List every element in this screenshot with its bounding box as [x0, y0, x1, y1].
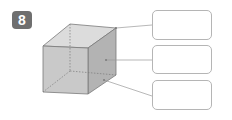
answer-box-3[interactable]	[152, 80, 212, 110]
prism-front-face	[43, 46, 88, 94]
answer-box-2[interactable]	[152, 45, 212, 74]
answer-box-1[interactable]	[152, 10, 212, 40]
